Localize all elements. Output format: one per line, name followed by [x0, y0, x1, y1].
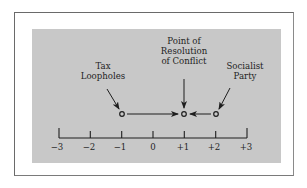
- pointer-tax-loopholes: [107, 89, 119, 109]
- label-resolution: Point of Resolution of Conflict: [161, 36, 207, 66]
- number-line-diagram: [0, 0, 307, 188]
- tick-label-minus-1: −1: [114, 142, 127, 152]
- label-socialist-party: Socialist Party: [226, 61, 263, 81]
- pointer-socialist-party: [219, 88, 230, 109]
- tick-label-minus-3: −3: [51, 142, 64, 152]
- number-axis: [59, 128, 247, 138]
- tick-label-plus-1: +1: [177, 142, 190, 152]
- point-resolution: [182, 112, 187, 117]
- tick-label-plus-2: +2: [208, 142, 221, 152]
- point-socialist-party: [214, 112, 219, 117]
- label-tax-loopholes: Tax Loopholes: [81, 61, 126, 81]
- point-tax-loopholes: [120, 112, 125, 117]
- tick-label-minus-2: −2: [83, 142, 96, 152]
- tick-label-0: 0: [150, 142, 155, 152]
- tick-label-plus-3: +3: [240, 142, 253, 152]
